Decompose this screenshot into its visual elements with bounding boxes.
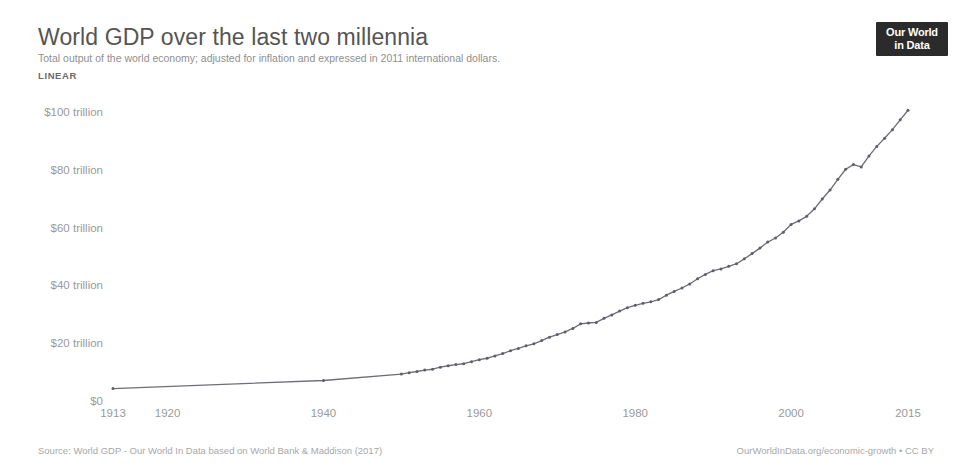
data-point[interactable] <box>836 178 839 181</box>
data-point[interactable] <box>501 352 504 355</box>
data-point[interactable] <box>829 189 832 192</box>
data-point[interactable] <box>509 349 512 352</box>
data-point[interactable] <box>797 219 800 222</box>
data-point[interactable] <box>727 265 730 268</box>
data-point[interactable] <box>470 360 473 363</box>
data-point[interactable] <box>821 197 824 200</box>
x-axis-tick-label: 1940 <box>311 407 337 419</box>
y-axis-tick-label: $0 <box>90 395 103 407</box>
footer-link-text[interactable]: OurWorldInData.org/economic-growth • CC … <box>737 445 934 456</box>
data-point[interactable] <box>883 137 886 140</box>
y-axis-tick-label: $40 trillion <box>51 279 103 291</box>
data-point[interactable] <box>454 363 457 366</box>
data-point[interactable] <box>875 145 878 148</box>
data-series-world-gdp <box>112 109 910 390</box>
data-point[interactable] <box>478 358 481 361</box>
data-point[interactable] <box>493 354 496 357</box>
data-point[interactable] <box>899 118 902 121</box>
x-axis-tick-label: 2015 <box>895 407 921 419</box>
x-axis: 1913192019401960198020002015 <box>100 407 921 419</box>
data-point[interactable] <box>642 302 645 305</box>
data-point[interactable] <box>322 379 325 382</box>
data-point[interactable] <box>595 321 598 324</box>
y-axis-tick-label: $80 trillion <box>51 164 103 176</box>
data-point[interactable] <box>907 109 910 112</box>
data-point[interactable] <box>790 223 793 226</box>
our-world-in-data-logo[interactable]: Our World in Data <box>876 22 948 56</box>
data-point[interactable] <box>891 128 894 131</box>
data-point[interactable] <box>634 304 637 307</box>
data-point[interactable] <box>751 252 754 255</box>
data-point[interactable] <box>408 371 411 374</box>
data-point[interactable] <box>439 366 442 369</box>
x-axis-tick-label: 2000 <box>778 407 804 419</box>
x-axis-tick-label: 1913 <box>100 407 126 419</box>
logo-line-1: Our World <box>886 26 938 39</box>
data-point[interactable] <box>766 241 769 244</box>
x-axis-tick-label: 1920 <box>155 407 181 419</box>
data-point[interactable] <box>680 287 683 290</box>
y-axis-tick-label: $20 trillion <box>51 337 103 349</box>
data-point[interactable] <box>665 294 668 297</box>
data-point[interactable] <box>852 163 855 166</box>
series-line <box>113 110 908 388</box>
data-point[interactable] <box>704 273 707 276</box>
chart-footer: Source: World GDP - Our World In Data ba… <box>0 445 966 461</box>
data-point[interactable] <box>525 344 528 347</box>
chart-subtitle: Total output of the world economy; adjus… <box>38 52 858 65</box>
y-axis-tick-label: $100 trillion <box>44 106 103 118</box>
x-axis-tick-label: 1980 <box>622 407 648 419</box>
data-point[interactable] <box>782 231 785 234</box>
chart-header: World GDP over the last two millennia To… <box>38 24 858 83</box>
y-axis: $0$20 trillion$40 trillion$60 trillion$8… <box>44 106 103 407</box>
footer-source-text: Source: World GDP - Our World In Data ba… <box>38 445 382 456</box>
x-axis-tick-label: 1960 <box>467 407 493 419</box>
data-point[interactable] <box>540 339 543 342</box>
logo-line-2: in Data <box>894 39 929 52</box>
data-point[interactable] <box>532 342 535 345</box>
data-point[interactable] <box>844 168 847 171</box>
data-point[interactable] <box>579 322 582 325</box>
y-axis-tick-label: $60 trillion <box>51 222 103 234</box>
data-point[interactable] <box>112 387 115 390</box>
data-point[interactable] <box>868 154 871 157</box>
data-point[interactable] <box>626 306 629 309</box>
data-point[interactable] <box>735 262 738 265</box>
data-point[interactable] <box>860 165 863 168</box>
data-point[interactable] <box>649 300 652 303</box>
data-point[interactable] <box>673 290 676 293</box>
tab-linear-scale[interactable]: LINEAR <box>38 70 77 81</box>
data-point[interactable] <box>462 362 465 365</box>
data-point[interactable] <box>743 257 746 260</box>
data-point[interactable] <box>688 282 691 285</box>
data-point[interactable] <box>571 327 574 330</box>
page-title: World GDP over the last two millennia <box>38 24 858 50</box>
data-point[interactable] <box>813 207 816 210</box>
data-point[interactable] <box>805 215 808 218</box>
data-point[interactable] <box>587 321 590 324</box>
data-point[interactable] <box>415 370 418 373</box>
data-point[interactable] <box>517 347 520 350</box>
data-point[interactable] <box>657 298 660 301</box>
data-point[interactable] <box>486 357 489 360</box>
data-point[interactable] <box>400 373 403 376</box>
data-point[interactable] <box>548 336 551 339</box>
data-point[interactable] <box>423 369 426 372</box>
data-point[interactable] <box>618 310 621 313</box>
data-point[interactable] <box>712 269 715 272</box>
data-point[interactable] <box>696 277 699 280</box>
data-point[interactable] <box>447 364 450 367</box>
data-point[interactable] <box>564 330 567 333</box>
data-point[interactable] <box>758 247 761 250</box>
data-point[interactable] <box>610 313 613 316</box>
data-point[interactable] <box>774 237 777 240</box>
data-point[interactable] <box>556 333 559 336</box>
data-point[interactable] <box>603 317 606 320</box>
chart-card: World GDP over the last two millennia To… <box>0 0 966 475</box>
data-point[interactable] <box>431 368 434 371</box>
data-point[interactable] <box>719 267 722 270</box>
